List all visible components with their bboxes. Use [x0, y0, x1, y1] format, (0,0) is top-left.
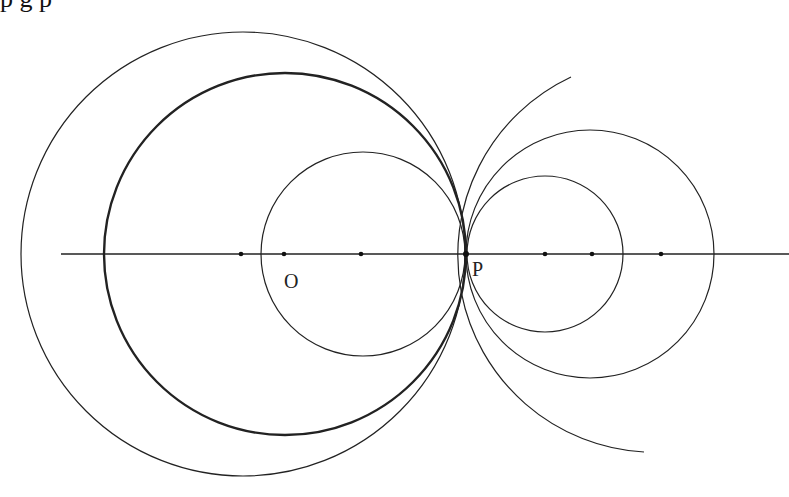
point-left-3 — [359, 252, 364, 257]
point-left-1 — [239, 252, 244, 257]
label-P: P — [472, 258, 483, 280]
point-P — [463, 251, 469, 257]
point-right-1 — [543, 252, 548, 257]
label-O: O — [284, 270, 298, 292]
geometry-diagram: O P — [0, 0, 789, 497]
point-right-3 — [659, 252, 664, 257]
point-O — [282, 252, 287, 257]
point-right-2 — [590, 252, 595, 257]
